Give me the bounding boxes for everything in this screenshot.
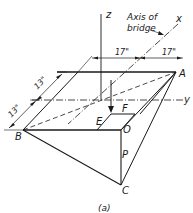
- strut-A-O: [140, 72, 176, 114]
- point-C: C: [122, 185, 129, 196]
- x-axis-label: x: [175, 13, 182, 24]
- point-B: B: [15, 131, 22, 142]
- annotation-line1: Axis of: [126, 12, 159, 22]
- y-axis-label: y: [183, 94, 191, 105]
- point-P: P: [122, 149, 129, 160]
- dim-arrow: [56, 74, 62, 79]
- dim-arrow: [9, 123, 15, 128]
- point-A: A: [178, 68, 186, 79]
- point-F: F: [122, 103, 128, 114]
- strut-BC: [23, 130, 121, 185]
- load-arrow-head: [108, 106, 114, 113]
- dim-label-side-upper: 13": [32, 75, 48, 91]
- dim-label-top-left: 17": [115, 48, 129, 57]
- point-E: E: [96, 116, 103, 127]
- annotation-arrow: [158, 31, 164, 35]
- figure-caption: (a): [98, 203, 111, 213]
- point-O: O: [123, 124, 131, 135]
- dim-label-top-right: 17": [162, 48, 176, 57]
- dim-ext-left: [78, 56, 92, 72]
- dim-arrow: [93, 57, 98, 60]
- dim-arrow: [177, 57, 182, 60]
- z-axis-label: z: [105, 9, 112, 20]
- dim-arrow: [140, 57, 145, 60]
- annotation-line2: bridge: [127, 23, 156, 33]
- deck-left-edge: [23, 72, 78, 130]
- bridge-diagram: z x y Axis of bridge 17" 17" 13" 13" A B…: [0, 0, 193, 213]
